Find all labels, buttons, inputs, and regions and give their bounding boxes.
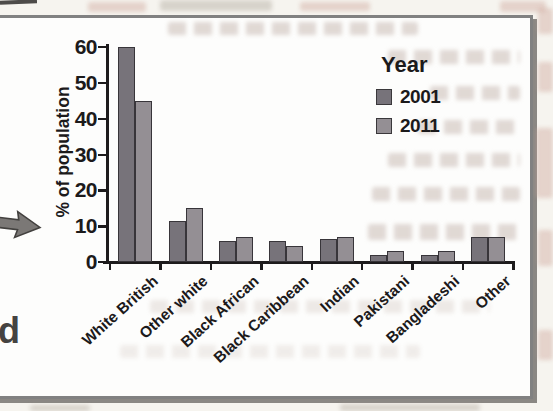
y-tick-label: 10 [61, 214, 97, 238]
bleed-through-text [88, 2, 146, 12]
bar-2001-pakistani [370, 255, 387, 262]
legend-title: Year [381, 52, 440, 78]
x-tick [512, 262, 514, 270]
bar-2011-black-african [236, 237, 253, 262]
bleed-through-text [300, 2, 370, 11]
scan-artifact-mark [0, 0, 37, 5]
legend-label-2011: 2011 [400, 115, 439, 137]
y-tick [98, 82, 107, 84]
x-tick [210, 262, 212, 270]
legend-swatch-2011 [376, 118, 392, 134]
bar-2001-indian [320, 239, 337, 262]
bar-2011-pakistani [387, 251, 404, 262]
bleed-through-text [500, 1, 546, 12]
legend-label-2001: 2001 [400, 86, 440, 108]
bar-2001-black-caribbean [269, 241, 286, 262]
bleed-through-text [30, 405, 90, 411]
legend: Year 2001 2011 [376, 52, 440, 144]
y-tick [98, 154, 107, 156]
bleed-through-text [160, 0, 272, 11]
bleed-through-text [538, 62, 553, 92]
bar-2011-white-british [135, 101, 152, 262]
bleed-through-text [538, 8, 553, 34]
x-tick [361, 262, 363, 270]
bar-2001-white-british [118, 47, 135, 262]
cut-off-page-text: d [0, 310, 20, 352]
y-tick-label: 60 [61, 35, 97, 59]
x-tick [462, 262, 464, 270]
bleed-through-text [536, 128, 553, 198]
bar-2011-other [488, 237, 505, 262]
y-tick [98, 189, 107, 191]
bleed-through-text [538, 330, 553, 360]
y-tick [98, 261, 107, 263]
legend-item-2001: 2001 [376, 86, 440, 108]
y-tick [98, 118, 107, 120]
y-axis-title: % of population [53, 86, 74, 217]
y-tick [98, 225, 107, 227]
x-tick [260, 262, 262, 270]
bar-2001-other [471, 237, 488, 262]
bar-2011-black-caribbean [286, 246, 303, 262]
bar-2011-indian [337, 237, 354, 262]
callout-arrow-icon [0, 202, 45, 249]
y-tick-label: 0 [61, 250, 97, 274]
bar-2001-other-white [169, 221, 186, 262]
x-tick [159, 262, 161, 270]
bar-2001-black-african [219, 241, 236, 262]
x-tick [411, 262, 413, 270]
bleed-through-text [538, 230, 553, 266]
bar-2011-bangladeshi [438, 251, 455, 262]
bar-2011-other-white [186, 208, 203, 262]
x-tick [311, 262, 313, 270]
legend-swatch-2001 [376, 89, 392, 105]
legend-item-2011: 2011 [376, 115, 440, 137]
x-tick [109, 262, 111, 270]
bleed-through-text [340, 404, 480, 411]
bar-2001-bangladeshi [421, 255, 438, 262]
y-tick [98, 46, 107, 48]
